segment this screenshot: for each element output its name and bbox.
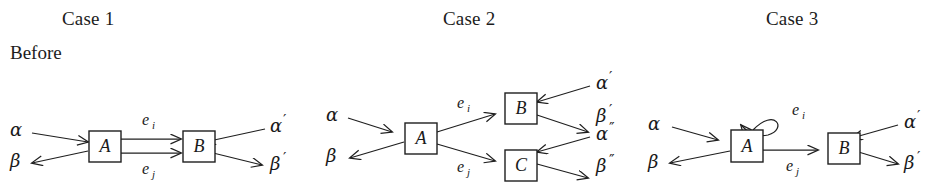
- case-1-node-B-label: B: [194, 136, 205, 156]
- row-label-before: Before: [10, 42, 62, 64]
- case-1-node-A-label: A: [99, 136, 112, 156]
- case-2-edge-alpha-dprime-in: [537, 137, 590, 152]
- case-3-label-alpha-prime-in: α ′: [904, 107, 921, 132]
- case-3-node-B-label: B: [839, 138, 850, 158]
- case-2-alphaprime-base: α: [596, 72, 608, 93]
- case-3-alphaprime-mark: ′: [917, 107, 921, 125]
- case-2-edge-ej: [437, 144, 495, 161]
- case-2-ej-sub: j: [465, 166, 470, 178]
- case-3-beta-base: β: [647, 151, 658, 172]
- case-3-edge-beta-out: [670, 151, 730, 163]
- case-1-edge-label-ej: e j: [142, 160, 155, 180]
- case-1-alphaprime-mark: ′: [283, 111, 287, 129]
- case-3-alphaprime-base: α: [904, 111, 916, 132]
- case-1-ej-base: e: [142, 160, 149, 177]
- case-2-edge-ei: [437, 114, 495, 132]
- case-2-alpha-base: α: [326, 104, 338, 125]
- case-2-edge-alpha-prime-in: [537, 86, 590, 102]
- case-3-betaprime-base: β: [903, 152, 914, 173]
- case-1-ei-sub: i: [152, 119, 155, 131]
- case-2-edge-label-ej: e j: [457, 158, 470, 178]
- case-1-alpha-base: α: [10, 119, 22, 140]
- case-2-ei-base: e: [457, 94, 464, 111]
- case-2-alphadprime-base: α: [596, 123, 608, 144]
- case-3-ej-sub: j: [794, 165, 799, 177]
- case-2-betaprime-mark: ′: [609, 101, 613, 119]
- case-2-label-alpha-dprime-in: α ″: [596, 119, 615, 144]
- case-3-betaprime-mark: ′: [917, 148, 921, 166]
- case-2-node-A-label: A: [415, 128, 428, 148]
- case-3-label-beta-out: β: [647, 151, 658, 172]
- case-1-edge-beta-out: [32, 151, 88, 163]
- case-1-ei-base: e: [142, 111, 149, 128]
- case-1-edge-alpha-in: [32, 133, 88, 142]
- case-1-label-beta-prime-out: β ′: [269, 149, 287, 174]
- case-2-node-B-label: B: [516, 98, 527, 118]
- case-1-beta-base: β: [9, 150, 20, 171]
- case-2-betadprime-mark: ″: [609, 151, 615, 169]
- figure-root: Case 1 Case 2 Case 3 Before A B e i: [0, 0, 938, 182]
- case-3-title: Case 3: [766, 8, 818, 30]
- case-3-ei-sub: i: [802, 109, 805, 121]
- case-1-label-alpha-in: α: [10, 119, 22, 140]
- case-3-ei-base: e: [792, 101, 799, 118]
- case-1-label-beta-out: β: [9, 150, 20, 171]
- case-3-edge-label-ei: e i: [792, 101, 805, 121]
- case-2-edge-beta-dprime-out: [537, 164, 588, 178]
- case-2-alphaprime-mark: ′: [609, 68, 613, 86]
- case-2-ei-sub: i: [467, 102, 470, 114]
- case-1-alphaprime-base: α: [270, 115, 282, 136]
- case-2-edge-beta-prime-out: [537, 115, 588, 132]
- case-1-title: Case 1: [62, 8, 114, 30]
- case-3-alpha-base: α: [648, 113, 660, 134]
- case-1-betaprime-mark: ′: [283, 149, 287, 167]
- case-2-betadprime-base: β: [595, 155, 606, 176]
- case-1-label-alpha-prime-in: α ′: [270, 111, 287, 136]
- case-1-ej-sub: j: [150, 168, 155, 180]
- case-3-diagram: A B e i e j α β α ′ β ′: [640, 85, 938, 182]
- case-2-edge-beta-out: [350, 142, 404, 158]
- case-2-edge-label-ei: e i: [457, 94, 470, 114]
- case-1-diagram: A B e i e j α β α ′ β ′: [0, 95, 320, 182]
- case-3-edge-label-ej: e j: [786, 157, 799, 177]
- case-2-title: Case 2: [443, 8, 495, 30]
- case-3-label-beta-prime-out: β ′: [903, 148, 921, 173]
- case-1-betaprime-base: β: [269, 153, 280, 174]
- case-2-edge-alpha-in: [348, 118, 392, 132]
- case-3-node-A-label: A: [741, 136, 754, 156]
- case-2-alphadprime-mark: ″: [609, 119, 615, 137]
- case-2-label-alpha-in: α: [326, 104, 338, 125]
- case-2-node-C-label: C: [515, 155, 528, 175]
- case-2-label-alpha-prime-in: α ′: [596, 68, 613, 93]
- case-3-ej-base: e: [786, 157, 793, 174]
- case-2-label-beta-dprime-out: β ″: [595, 151, 615, 176]
- case-2-diagram: A B C e i e j α β α ′ β ′ α ″: [320, 62, 640, 182]
- case-3-label-alpha-in: α: [648, 113, 660, 134]
- case-1-edge-label-ei: e i: [142, 111, 155, 131]
- case-3-edge-alpha-in: [672, 127, 718, 140]
- case-2-ej-base: e: [457, 158, 464, 175]
- case-2-label-beta-out: β: [325, 145, 336, 166]
- case-2-beta-base: β: [325, 145, 336, 166]
